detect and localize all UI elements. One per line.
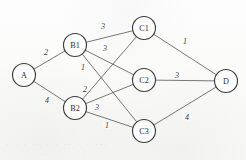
edge-weight-c2-d: 3 xyxy=(174,71,179,80)
edge-weight-a-b1: 2 xyxy=(44,48,48,57)
node-label-b2: B2 xyxy=(70,104,80,113)
node-d[interactable]: D xyxy=(215,70,238,93)
edge-b1-c2 xyxy=(85,50,133,75)
nodes-layer: AB1B2C1C2C3D xyxy=(13,17,238,143)
node-c2[interactable]: C2 xyxy=(133,69,156,92)
node-c3[interactable]: C3 xyxy=(133,120,156,143)
node-a[interactable]: A xyxy=(13,64,36,87)
node-label-d: D xyxy=(223,77,229,86)
edge-weight-a-b2: 4 xyxy=(45,96,49,105)
node-b1[interactable]: B1 xyxy=(64,34,87,57)
edge-weight-b2-c1: 2 xyxy=(83,85,87,94)
edge-weight-c1-d: 1 xyxy=(183,37,187,46)
edge-weight-b1-c1: 3 xyxy=(100,22,105,31)
edge-b1-c1 xyxy=(86,31,133,43)
edge-weight-b2-c3: 1 xyxy=(105,121,109,130)
node-label-b1: B1 xyxy=(70,41,80,50)
node-c1[interactable]: C1 xyxy=(133,17,156,40)
edge-weight-c3-d: 4 xyxy=(185,113,189,122)
node-label-c1: C1 xyxy=(139,24,149,33)
node-label-a: A xyxy=(21,71,27,80)
edge-b2-c1 xyxy=(83,37,137,100)
node-b2[interactable]: B2 xyxy=(64,97,87,120)
node-label-c3: C3 xyxy=(139,127,149,136)
node-label-c2: C2 xyxy=(139,76,149,85)
edge-weight-b1-c2: 3 xyxy=(102,44,107,53)
edge-weight-b1-c3: 1 xyxy=(81,63,85,72)
edge-weight-b2-c2: 3 xyxy=(94,103,99,112)
graph-figure: · · · AB1B2C1C2C3D 24331231134 · · · ·· … xyxy=(0,0,246,160)
graph-canvas: AB1B2C1C2C3D 24331231134 xyxy=(0,0,246,160)
edge-c2-d xyxy=(156,80,215,81)
edge-b1-c3 xyxy=(82,54,137,122)
